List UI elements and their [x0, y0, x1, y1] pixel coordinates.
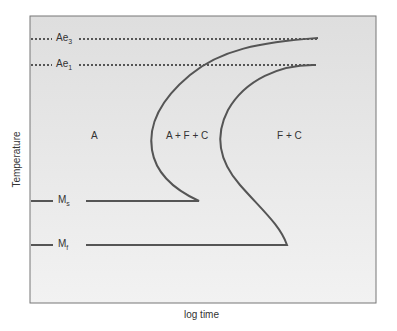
ae3-label: Ae3 [56, 32, 72, 45]
region-austenite: A [91, 130, 98, 141]
plot-area [30, 16, 376, 303]
ae1-label: Ae1 [56, 58, 72, 71]
region-transforming: A + F + C [166, 130, 208, 141]
region-transformed: F + C [277, 130, 302, 141]
y-axis-label: Temperature [11, 130, 22, 190]
x-axis-label: log time [184, 309, 219, 320]
ms-label: Ms [58, 194, 70, 207]
mf-label: Mf [58, 238, 68, 251]
ttt-diagram [0, 0, 397, 331]
